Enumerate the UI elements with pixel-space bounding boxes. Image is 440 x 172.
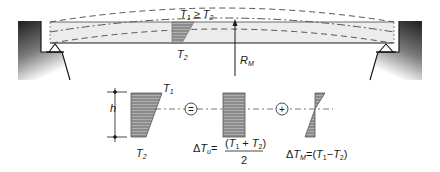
left-bearing-icon: [46, 44, 64, 52]
equals-symbol-icon: =: [185, 103, 197, 115]
total-temperature-profile: [131, 93, 162, 137]
gradient-temperature-profile: [305, 93, 325, 137]
uniform-formula: ΔTu= (T1 + T2) 2: [193, 137, 266, 166]
right-bearing-icon: [376, 44, 396, 52]
reaction-label: RM: [240, 54, 254, 67]
uniform-temperature-profile: [223, 93, 245, 137]
svg-text:2: 2: [241, 154, 247, 166]
section-t2-label: T2: [177, 48, 188, 61]
plus-symbol-icon: +: [276, 103, 288, 115]
svg-text:+: +: [279, 104, 285, 115]
svg-text:ΔTM=(T1−T2): ΔTM=(T1−T2): [286, 148, 347, 161]
svg-text:ΔTu=: ΔTu=: [193, 142, 217, 155]
total-t1-label: T1: [163, 82, 174, 95]
gradient-formula: ΔTM=(T1−T2): [286, 148, 347, 161]
bridge-temperature-diagram: T1 ≥ T2 T2 RM h T1 T2 = +: [0, 0, 440, 172]
condition-label: T1 ≥ T2: [180, 8, 214, 21]
height-label: h: [110, 102, 116, 114]
svg-text:=: =: [188, 104, 194, 115]
height-dimension: [107, 88, 127, 142]
total-t2-label: T2: [136, 147, 147, 160]
svg-text:(T1 + T2): (T1 + T2): [225, 137, 266, 150]
